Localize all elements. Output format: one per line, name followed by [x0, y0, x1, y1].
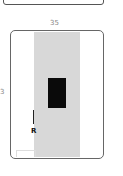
top-panel-outline: [3, 0, 104, 5]
dimension-label-top: 35: [50, 19, 59, 27]
dimension-label-left: 3: [0, 88, 4, 96]
marker-label: R: [31, 127, 36, 135]
corner-rectangle: [16, 150, 36, 157]
marker-line: [33, 110, 34, 124]
black-block: [48, 78, 66, 108]
